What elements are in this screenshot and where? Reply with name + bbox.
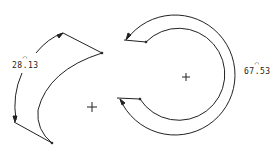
crescent-top-edge bbox=[63, 33, 102, 53]
dimension-value: 67.53 bbox=[244, 67, 270, 76]
ring-inner-arc bbox=[140, 28, 225, 120]
dimension-value: 28.13 bbox=[12, 61, 38, 70]
crescent-inner-arc bbox=[38, 53, 102, 143]
crescent-bottom-edge bbox=[14, 122, 52, 143]
endpoint-dot bbox=[51, 142, 53, 144]
arrowhead-icon bbox=[57, 33, 63, 38]
endpoint-dot bbox=[145, 41, 147, 43]
arrowhead-icon bbox=[120, 99, 125, 105]
drawing-canvas bbox=[0, 0, 274, 154]
left-crescent-shape bbox=[14, 33, 102, 143]
ring-top-gap-edge bbox=[124, 40, 146, 42]
ring-outer-arc-partial bbox=[120, 15, 235, 135]
arc-length-dimension-left: ⌒ 28.13 bbox=[12, 55, 38, 70]
endpoint-dot bbox=[139, 98, 141, 100]
center-cross-icon bbox=[182, 73, 190, 81]
arrowhead-icon bbox=[13, 116, 17, 122]
arc-length-dimension-right: ⌒ 67.53 bbox=[244, 61, 270, 76]
center-cross-icon bbox=[87, 102, 97, 112]
arrowhead-icon bbox=[126, 33, 131, 40]
endpoint-dot bbox=[101, 52, 103, 54]
dimension-arc-bottom bbox=[15, 73, 22, 120]
right-ring-shape bbox=[117, 15, 235, 135]
